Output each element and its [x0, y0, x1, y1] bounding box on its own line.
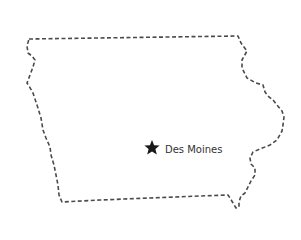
star-icon [144, 140, 159, 154]
state-border [27, 36, 284, 208]
capital-label: Des Moines [165, 144, 222, 155]
iowa-outline-map: Des Moines [0, 0, 301, 240]
